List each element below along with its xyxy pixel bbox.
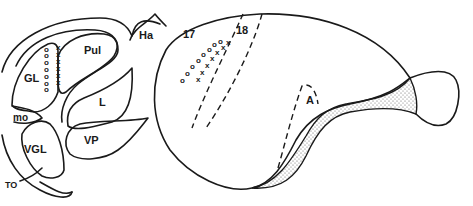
svg-text:x: x: [226, 38, 231, 47]
border-18-outer: [206, 14, 262, 128]
thalamus-outline: [2, 18, 160, 197]
cortex-markers: ooo ooo oo xxx xxxx: [180, 37, 231, 85]
svg-text:x: x: [215, 48, 220, 57]
label-vp: VP: [84, 134, 99, 146]
olfactory-bulb: [410, 72, 459, 126]
label-17: 17: [183, 28, 195, 40]
label-mo: mo: [13, 112, 28, 123]
label-to: TO: [5, 180, 17, 190]
label-vgl: VGL: [24, 143, 47, 155]
label-a: A: [306, 94, 314, 106]
label-gl: GL: [24, 72, 40, 84]
label-pul: Pul: [84, 44, 101, 56]
svg-text:x: x: [56, 78, 61, 87]
label-18: 18: [236, 24, 248, 36]
label-ha: Ha: [139, 29, 154, 41]
brain-diagram: GL mo Pul L VP VGL TO ooo oooo xxx xxx A…: [0, 0, 473, 206]
svg-text:o: o: [190, 62, 195, 71]
gl-markers: ooo oooo xxx xxx: [44, 43, 61, 94]
label-l: L: [99, 96, 106, 108]
svg-text:o: o: [44, 85, 49, 94]
vp-nucleus: [66, 118, 148, 159]
svg-text:o: o: [201, 50, 206, 59]
